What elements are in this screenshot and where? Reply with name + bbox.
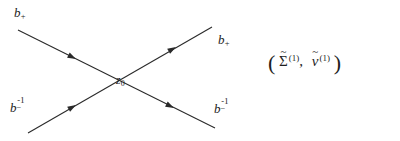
label-subscript: +: [21, 11, 26, 21]
label-incoming-b-minus-inverse: b−-1: [10, 99, 29, 114]
pair-expression: ( ~ Σ (1) , ~ v (1) ): [268, 52, 398, 74]
figure-canvas: b+ b−-1 b+ b−-1 z0 ( ~ Σ (1) , ~ v (1) ): [0, 0, 400, 141]
tilde-accent-sigma: ~: [280, 46, 286, 57]
v-tilde-host: ~ v: [312, 54, 319, 69]
label-outgoing-b-plus: b+: [218, 33, 229, 48]
close-paren: ): [334, 50, 341, 75]
label-base: b: [218, 32, 225, 47]
tilde-accent-v: ~: [312, 46, 318, 57]
sigma-tilde-host: ~ Σ: [279, 54, 288, 69]
expression-comma: ,: [299, 53, 303, 69]
arrowhead-descending-lower: [165, 102, 175, 111]
sigma-superscript: (1): [289, 53, 300, 63]
arrowhead-descending-upper: [67, 53, 77, 62]
label-subsup: −-1: [221, 100, 233, 113]
label-subscript: +: [225, 38, 230, 48]
label-superscript: -1: [17, 96, 24, 105]
crossing-lines-diagram: [0, 0, 260, 141]
label-crossing-point-z0: z0: [116, 75, 125, 88]
label-subsup: −-1: [17, 99, 29, 112]
term-v-tilde: ~ v (1): [312, 54, 330, 70]
label-subscript: 0: [121, 79, 125, 88]
v-superscript: (1): [319, 53, 330, 63]
open-paren: (: [268, 50, 275, 75]
label-superscript: -1: [221, 97, 228, 106]
term-sigma-tilde: ~ Σ (1): [279, 54, 299, 70]
label-base: b: [14, 5, 21, 20]
label-outgoing-b-minus-inverse: b−-1: [214, 100, 233, 115]
label-incoming-b-plus: b+: [14, 6, 25, 21]
arrowhead-ascending-lower: [67, 102, 77, 111]
label-base: z: [116, 74, 120, 86]
